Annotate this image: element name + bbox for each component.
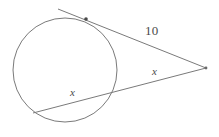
geometry-figure: 10 x x [0,0,219,137]
secant-external-segment-label: x [152,66,157,77]
secant-chord-segment-label: x [70,87,75,98]
geometry-canvas [0,0,219,137]
tangent-length-label: 10 [145,24,159,37]
tangent-line [58,9,206,68]
external-vertex-point [205,67,208,70]
secant-line [33,68,206,113]
circle [13,18,117,122]
tangent-point [84,17,88,21]
